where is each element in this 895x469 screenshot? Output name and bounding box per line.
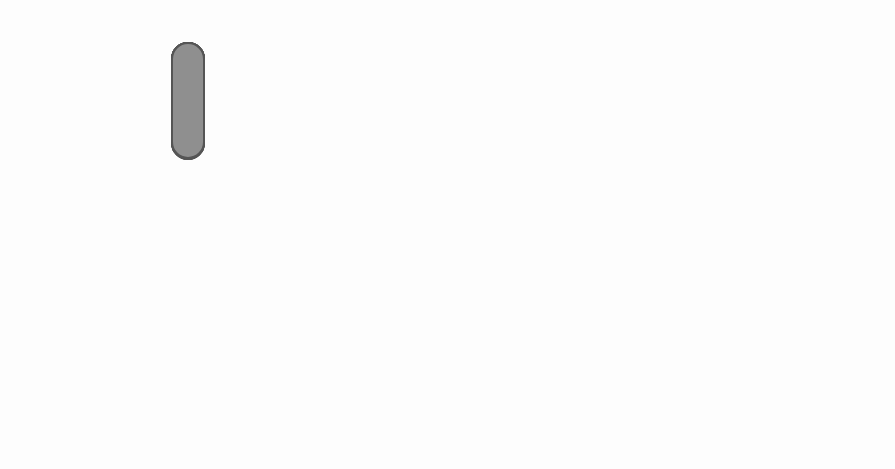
- normal-chromosome-shape: [171, 42, 205, 159]
- gene-linkage-diagram: [0, 0, 895, 469]
